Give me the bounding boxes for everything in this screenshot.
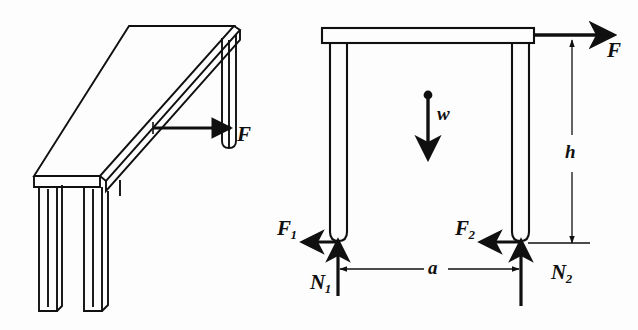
- table-top-right-edge-lower: [106, 30, 240, 191]
- height-dimension: [528, 40, 590, 243]
- fbd-normal-left-label: N1: [310, 272, 331, 295]
- fbd-normal-right-symbol: N: [551, 260, 566, 284]
- width-dimension-label: a: [428, 258, 438, 277]
- fbd-friction-right-subscript: 2: [469, 227, 476, 242]
- physics-figure: F F w F1 F2 N1 N2 h a: [0, 0, 638, 330]
- perspective-force-label: F: [237, 124, 251, 145]
- perspective-table: [34, 26, 240, 311]
- fbd-normal-left-subscript: 1: [325, 281, 332, 296]
- table-top-right-edge: [100, 26, 240, 181]
- fbd-friction-left-symbol: F: [277, 216, 291, 240]
- fbd-normal-right-label: N2: [551, 262, 572, 285]
- fbd-leg-right: [512, 43, 529, 241]
- fbd-friction-right-symbol: F: [455, 216, 469, 240]
- fbd-leg-left: [330, 43, 347, 241]
- fbd-weight-label: w: [437, 104, 450, 123]
- fbd-friction-right-label: F2: [455, 218, 475, 241]
- fbd-friction-left-label: F1: [277, 218, 297, 241]
- height-dimension-label: h: [565, 142, 576, 161]
- fbd-normal-right-subscript: 2: [566, 271, 573, 286]
- fbd-table-top: [322, 28, 534, 43]
- fbd-weight-arrow: [424, 91, 433, 158]
- fbd-normal-left-symbol: N: [310, 270, 325, 294]
- fbd-applied-force-label: F: [607, 40, 621, 61]
- table-top-front-edge: [34, 176, 100, 187]
- fbd-friction-left-subscript: 1: [291, 227, 298, 242]
- table-top-face: [34, 26, 234, 176]
